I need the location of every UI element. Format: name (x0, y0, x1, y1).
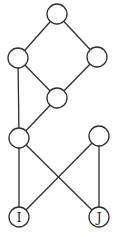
node-circle (8, 48, 28, 68)
node-label: I (16, 210, 21, 225)
node-circle (47, 88, 67, 108)
node-left (8, 48, 28, 68)
node-J: J (89, 207, 109, 227)
node-top (47, 4, 67, 24)
node-I: I (9, 207, 29, 227)
node-right (87, 47, 107, 67)
node-lower-left (9, 128, 29, 148)
edge-left-lower-left (18, 58, 19, 138)
edges-group (18, 14, 99, 217)
node-circle (9, 128, 29, 148)
node-circle (89, 126, 109, 146)
node-circle (47, 4, 67, 24)
hasse-diagram: IJ (0, 0, 116, 237)
node-circle (87, 47, 107, 67)
node-lower-right (89, 126, 109, 146)
nodes-group: IJ (8, 4, 109, 227)
node-label: J (94, 210, 101, 225)
node-middle (47, 88, 67, 108)
